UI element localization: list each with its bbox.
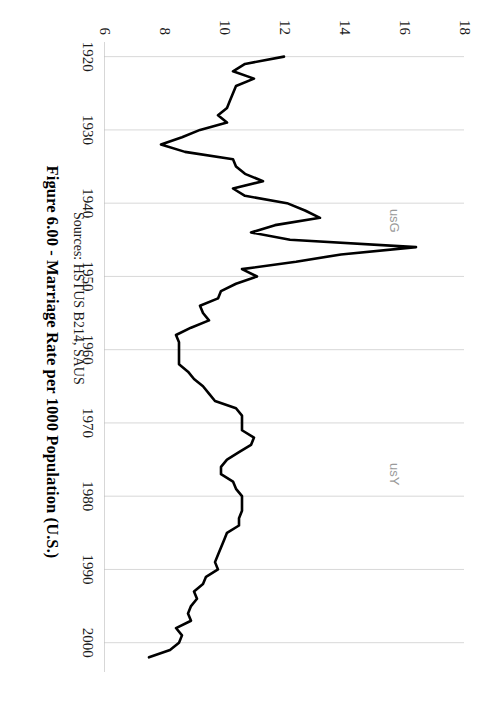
watermark-label: usG [387,209,402,233]
chart-plot [104,42,464,672]
x-tick-label: 1920 [80,42,95,72]
y-tick-label: 12 [277,20,292,35]
figure-title: Figure 6.00 - Marriage Rate per 1000 Pop… [42,0,62,724]
rotated-figure: 681012141618 192019301940195019601970198… [0,0,478,724]
x-tick-label: 2000 [80,628,95,658]
y-tick-label: 14 [337,20,352,35]
figure-canvas: 681012141618 192019301940195019601970198… [0,0,478,724]
line-chart-svg [104,42,464,672]
y-tick-label: 18 [457,20,472,35]
x-tick-label: 1930 [80,115,95,145]
watermark-label: usY [387,463,402,485]
x-tick-label: 1970 [80,408,95,438]
sources-note: Sources: HSTUS B214, SAUS [70,212,86,385]
y-tick-label: 8 [157,28,172,36]
x-tick-label: 1990 [80,554,95,584]
y-tick-label: 10 [217,20,232,35]
y-tick-label: 6 [97,28,112,36]
x-tick-label: 1980 [80,481,95,511]
y-tick-label: 16 [397,20,412,35]
plot-area: 681012141618 192019301940195019601970198… [104,42,464,672]
